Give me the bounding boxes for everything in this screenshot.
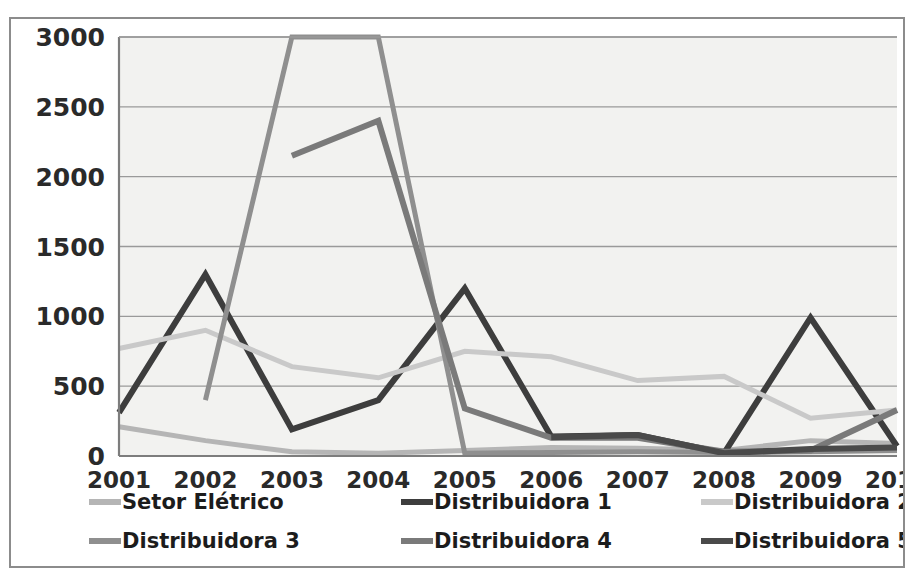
legend-label: Distribuidora 2 [734, 490, 903, 514]
y-tick-label: 1500 [35, 233, 105, 262]
x-tick-label: 2007 [606, 467, 670, 493]
legend-item-distribuidora-5[interactable]: Distribuidora 5 [701, 529, 903, 553]
legend-label: Distribuidora 1 [434, 490, 612, 514]
y-tick-label: 2500 [35, 93, 105, 122]
line-chart: 050010001500200025003000 200120022003200… [11, 19, 903, 566]
chart-frame: 050010001500200025003000 200120022003200… [9, 17, 905, 568]
legend-item-distribuidora-3[interactable]: Distribuidora 3 [89, 529, 300, 553]
y-tick-label: 1000 [35, 302, 105, 331]
legend-item-setor-el-trico[interactable]: Setor Elétrico [89, 490, 284, 514]
legend-item-distribuidora-1[interactable]: Distribuidora 1 [401, 490, 612, 514]
y-tick-label: 500 [53, 372, 105, 401]
y-tick-label: 3000 [35, 23, 105, 52]
y-axis-tick-labels: 050010001500200025003000 [35, 23, 105, 471]
chart-figure: 050010001500200025003000 200120022003200… [0, 0, 914, 587]
chart-legend: Setor ElétricoDistribuidora 1Distribuido… [89, 490, 903, 553]
legend-label: Distribuidora 5 [734, 529, 903, 553]
legend-label: Distribuidora 4 [434, 529, 612, 553]
legend-label: Setor Elétrico [122, 490, 284, 514]
legend-item-distribuidora-4[interactable]: Distribuidora 4 [401, 529, 612, 553]
legend-item-distribuidora-2[interactable]: Distribuidora 2 [701, 490, 903, 514]
y-tick-label: 2000 [35, 163, 105, 192]
legend-label: Distribuidora 3 [122, 529, 300, 553]
x-tick-label: 2004 [346, 467, 410, 493]
